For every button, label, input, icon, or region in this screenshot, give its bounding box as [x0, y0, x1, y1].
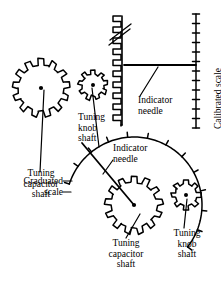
leader-tuning-capacitor-shaft-upper [40, 90, 44, 172]
leader-tuning-knob-shaft-lower [184, 199, 187, 228]
graduated-scale-arc-tick [201, 190, 206, 191]
rack-break-slash-2 [109, 29, 130, 45]
label-indicator-needle-lower: Indicator needle [113, 143, 171, 164]
tuning-dial-mechanism-figure: Tuning capacitor shaft Tuning knob shaft… [0, 0, 221, 285]
leader-indicator-needle-lower [103, 160, 113, 174]
label-graduated-scale: Graduated scale [2, 176, 63, 197]
tuning-capacitor-gear-upper-hub [39, 86, 43, 90]
label-indicator-needle-upper: Indicator needle [138, 95, 194, 116]
graduated-scale-arc-tick [194, 170, 198, 172]
label-tuning-knob-shaft-upper: Tuning knob shaft [78, 112, 122, 144]
graduated-scale-arc-tick [182, 153, 186, 157]
label-tuning-knob-shaft-lower: Tuning knob shaft [158, 228, 216, 260]
label-tuning-capacitor-shaft-lower: Tuning capacitor shaft [88, 238, 164, 270]
tuning-knob-gear-lower-hub [184, 193, 188, 197]
leader-indicator-needle-upper [140, 67, 158, 96]
tuning-knob-gear-upper-hub [91, 83, 95, 87]
graduated-scale-arc-tick [147, 133, 148, 138]
label-calibrated-scale: Calibrated scale [213, 19, 221, 129]
graduated-scale-arc-tick [74, 163, 78, 166]
